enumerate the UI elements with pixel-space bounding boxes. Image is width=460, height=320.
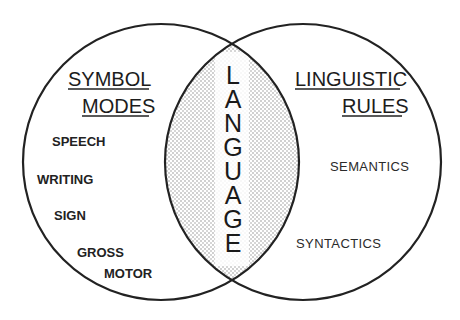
right-item-semantics: SEMANTICS (330, 159, 409, 174)
left-item-sign: SIGN (54, 208, 86, 223)
left-item-writing: WRITING (37, 172, 93, 187)
left-item-gross: GROSS (77, 245, 124, 260)
center-label-language: L A N G U A G E (223, 61, 242, 257)
center-letter-8: E (225, 229, 242, 257)
right-item-syntactics: SYNTACTICS (296, 236, 381, 251)
left-item-speech: SPEECH (52, 134, 105, 149)
right-title-line2: RULES (342, 95, 409, 117)
venn-diagram: SYMBOL MODES SPEECH WRITING SIGN GROSS M… (0, 0, 460, 320)
right-title-line1: LINGUISTIC (295, 68, 407, 90)
left-title-line2: MODES (82, 95, 155, 117)
left-title-line1: SYMBOL (68, 68, 151, 90)
left-item-motor: MOTOR (104, 266, 153, 281)
